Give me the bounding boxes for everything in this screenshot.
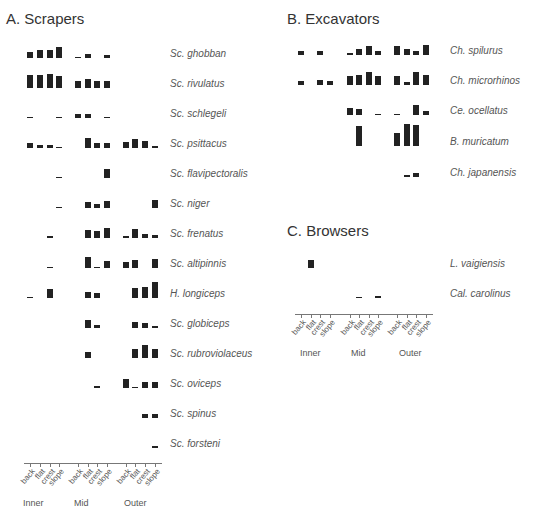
bar [413, 72, 419, 85]
bar [317, 51, 323, 55]
bar [123, 142, 129, 148]
bar [104, 143, 110, 148]
species-label: Cal. carolinus [450, 288, 511, 299]
bar [404, 82, 410, 85]
bar [356, 126, 362, 146]
species-label: Sc. ghobban [170, 48, 226, 59]
bar [47, 236, 53, 238]
bar [56, 207, 62, 209]
bar [85, 230, 91, 238]
bar [94, 386, 100, 388]
bar [94, 81, 100, 88]
bar [413, 173, 419, 178]
zone-label: Outer [399, 348, 422, 358]
bar [152, 146, 158, 148]
bar [152, 200, 158, 208]
zone-label: Mid [74, 498, 89, 508]
bar [142, 234, 148, 238]
bar [394, 114, 400, 116]
bar [132, 387, 138, 389]
bar [27, 143, 33, 148]
bar [27, 52, 33, 58]
species-label: Sc. oviceps [170, 378, 221, 389]
bar [142, 382, 148, 388]
bar [152, 259, 158, 268]
bar [413, 51, 419, 55]
bar [37, 75, 43, 88]
bar [347, 108, 353, 115]
bar [327, 81, 333, 85]
bar [85, 257, 91, 268]
bar [423, 111, 429, 116]
bar [404, 175, 410, 177]
bar [132, 349, 138, 358]
x-axis-line [295, 314, 433, 315]
bar [394, 133, 400, 146]
bar [56, 117, 62, 119]
bar [152, 282, 158, 298]
bar [56, 147, 62, 149]
bar [347, 76, 353, 85]
bar [47, 50, 53, 58]
bar [56, 47, 62, 58]
bar [47, 289, 53, 299]
bar [104, 228, 110, 238]
bar [123, 262, 129, 268]
bar [37, 50, 43, 58]
species-label: Sc. flavipectoralis [170, 168, 248, 179]
bar [85, 352, 91, 358]
bar [27, 117, 33, 119]
bar [104, 81, 110, 88]
bar [94, 231, 100, 238]
zone-label: Inner [23, 498, 44, 508]
bar [27, 297, 33, 299]
zone-label: Mid [351, 348, 366, 358]
bar [142, 287, 148, 298]
species-label: Sc. psittacus [170, 138, 227, 149]
bar [104, 55, 110, 58]
panel-c-title: C. Browsers [287, 222, 369, 239]
panel-a-title: A. Scrapers [6, 10, 84, 27]
bar [85, 138, 91, 148]
bar [375, 114, 381, 116]
bar [404, 124, 410, 147]
bar [75, 57, 81, 59]
bar [356, 49, 362, 55]
bar [308, 260, 314, 268]
bar [85, 320, 91, 328]
species-label: Ch. japanensis [450, 167, 516, 178]
bar [132, 288, 138, 298]
x-axis-line [24, 463, 162, 464]
bar [37, 145, 43, 148]
species-label: Sc. forsteni [170, 438, 220, 449]
species-label: Sc. altipinnis [170, 258, 226, 269]
species-label: Sc. rivulatus [170, 78, 224, 89]
bar [94, 143, 100, 148]
bar [152, 414, 158, 418]
species-label: Sc. rubroviolaceus [170, 348, 252, 359]
bar [423, 75, 429, 85]
bar [75, 81, 81, 88]
bar [132, 229, 138, 239]
bar [298, 51, 304, 56]
bar [47, 74, 53, 88]
bar [132, 260, 138, 268]
bar [375, 51, 381, 56]
bar [152, 446, 158, 448]
species-label: Sc. globiceps [170, 318, 229, 329]
bar [394, 76, 400, 85]
bar [366, 46, 372, 55]
bar [85, 79, 91, 88]
bar [85, 292, 91, 298]
bar [132, 322, 138, 328]
panel-b-title: B. Excavators [287, 10, 380, 27]
bar [375, 76, 381, 85]
bar [356, 75, 362, 85]
bar [94, 293, 100, 298]
bar [317, 80, 323, 85]
bar [152, 235, 158, 238]
bar [404, 49, 410, 55]
bar [104, 169, 110, 178]
bar [347, 53, 353, 55]
zone-label: Inner [300, 348, 321, 358]
